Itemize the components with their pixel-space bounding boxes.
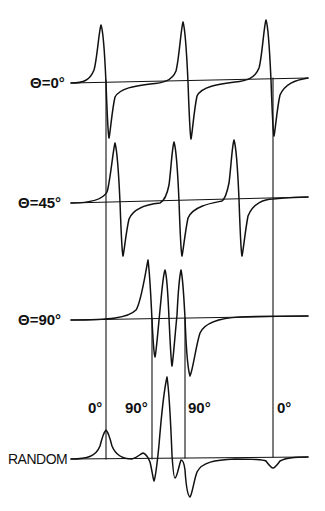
marker-label-0deg-right: 0° <box>277 400 291 415</box>
row-label-theta-90: Θ=90° <box>18 312 61 327</box>
row-label-theta-45: Θ=45° <box>18 195 61 210</box>
marker-label-90deg-right: 90° <box>188 400 211 415</box>
row-label-random: RANDOM <box>8 452 67 466</box>
row-label-theta-0: Θ=0° <box>30 75 65 90</box>
baseline-random <box>71 457 308 459</box>
marker-label-0deg-left: 0° <box>88 400 102 415</box>
marker-label-90deg-left: 90° <box>125 400 148 415</box>
